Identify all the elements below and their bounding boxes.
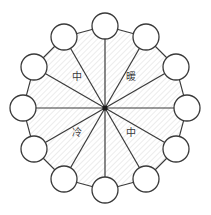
wheel-node-9[interactable] <box>10 95 36 121</box>
wheel-node-7[interactable] <box>51 166 77 192</box>
wheel-canvas <box>0 0 211 215</box>
quadrant-label-upper-left: 中 <box>71 72 83 84</box>
wheel-node-6[interactable] <box>92 177 118 203</box>
wheel-node-11[interactable] <box>51 24 77 50</box>
wheel-node-3[interactable] <box>174 95 200 121</box>
wheel-node-5[interactable] <box>133 166 159 192</box>
wheel-node-10[interactable] <box>21 54 47 80</box>
center-hub-dot <box>102 105 107 110</box>
wheel-node-1[interactable] <box>133 24 159 50</box>
color-wheel-diagram: 中 暖 冷 中 <box>0 0 211 215</box>
wheel-node-4[interactable] <box>163 136 189 162</box>
wheel-node-8[interactable] <box>21 136 47 162</box>
quadrant-label-upper-right: 暖 <box>125 72 137 84</box>
wheel-node-0[interactable] <box>92 13 118 39</box>
quadrant-label-lower-right: 中 <box>125 128 137 140</box>
wheel-node-2[interactable] <box>163 54 189 80</box>
quadrant-label-lower-left: 冷 <box>71 128 83 140</box>
